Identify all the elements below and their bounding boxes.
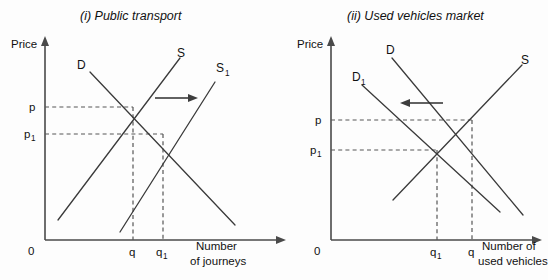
x-axis-label-line1-used-vehicles: Number of [482,240,536,252]
curve-label-D1-used-vehicles: D [352,70,361,84]
panel-public-transport: (i) Public transport Price Number of jou… [11,9,286,267]
panel-title-used-vehicles: (ii) Used vehicles market [347,9,484,23]
quantity-label-q1-subscript-public-transport: 1 [163,252,168,261]
y-axis-arrowhead-public-transport [41,36,49,46]
x-axis-label-line2-public-transport: of journeys [190,255,247,267]
y-axis-label-public-transport: Price [11,38,37,50]
curve-label-S1-public-transport: S [216,61,224,75]
y-axis-label-used-vehicles: Price [297,38,323,50]
curve-label-S-public-transport: S [177,46,185,60]
x-axis-label-line2-used-vehicles: used vehicles [478,255,548,267]
price-label-p-public-transport: p [29,101,35,113]
price-label-p-used-vehicles: p [315,114,321,126]
quantity-label-q1-public-transport: q [156,246,162,258]
x-axis-label-line1-public-transport: Number [196,240,237,252]
price-label-p1-subscript-used-vehicles: 1 [317,150,322,159]
curve-label-S1-subscript-public-transport: 1 [225,69,230,78]
curve-supply-used-vehicles [393,65,522,200]
price-label-p1-public-transport: p [24,128,30,140]
quantity-label-q-used-vehicles: q [468,246,474,258]
panel-title-public-transport: (i) Public transport [80,9,182,23]
origin-label-used-vehicles: 0 [314,245,320,257]
y-axis-arrowhead-used-vehicles [327,36,335,46]
curve-supply-public-transport [58,58,180,220]
origin-label-public-transport: 0 [28,245,34,257]
curve-demand-used-vehicles [392,58,523,215]
curve-label-S-used-vehicles: S [521,53,529,67]
shift-arrow-head-used-vehicles [400,99,410,107]
curve-label-D-used-vehicles: D [386,43,395,57]
price-label-p1-used-vehicles: p [310,144,316,156]
quantity-label-q1-subscript-used-vehicles: 1 [437,252,442,261]
curve-label-D-public-transport: D [77,58,86,72]
quantity-label-q1-used-vehicles: q [430,246,436,258]
supply-demand-diagram: (i) Public transport Price Number of jou… [0,0,548,280]
curve-label-D1-subscript-used-vehicles: 1 [361,78,366,87]
shift-arrow-head-public-transport [188,94,198,102]
quantity-label-q-public-transport: q [129,246,135,258]
price-label-p1-subscript-public-transport: 1 [31,134,36,143]
economics-diagram-figure: (i) Public transport Price Number of jou… [0,0,548,280]
panel-used-vehicles-market: (ii) Used vehicles market Price Number o… [297,9,548,267]
curve-supply-shifted-public-transport [120,82,215,232]
x-axis-arrowhead-public-transport [276,236,286,244]
